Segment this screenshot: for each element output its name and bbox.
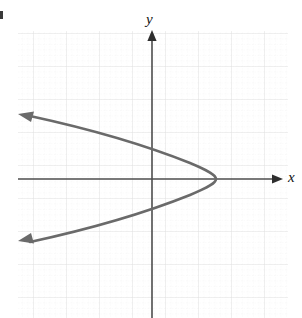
coordinate-plane	[0, 0, 302, 318]
x-axis-label: x	[288, 170, 295, 185]
y-axis-label: y	[146, 12, 153, 27]
graph-figure: y x	[0, 0, 302, 318]
grid-layer	[18, 31, 288, 318]
